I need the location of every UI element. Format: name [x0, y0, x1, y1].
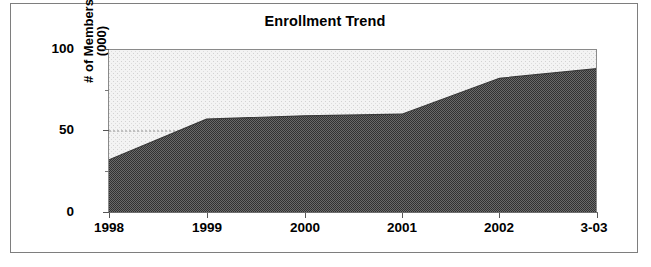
y-axis-title: # of Members (000): [80, 0, 110, 129]
plot-area: [109, 49, 597, 212]
area-chart-svg: [109, 49, 597, 212]
chart-frame: Enrollment Trend # of Members (000): [10, 3, 638, 253]
y-tick-label-100: 100: [14, 42, 74, 56]
x-tick-3-03: [597, 213, 598, 218]
y-tick-25: [105, 171, 109, 172]
y-tick-100: [103, 49, 109, 50]
y-axis-title-line-2: (000): [95, 0, 108, 83]
y-axis-line: [108, 49, 109, 213]
y-tick-label-0: 0: [14, 205, 74, 219]
x-tick-2001: [402, 213, 403, 218]
x-tick-label-2001: 2001: [367, 220, 437, 235]
x-axis-line: [108, 212, 598, 213]
y-tick-75: [105, 90, 109, 91]
y-tick-50: [103, 130, 109, 131]
x-tick-label-2002: 2002: [464, 220, 534, 235]
x-tick-label-2000: 2000: [270, 220, 340, 235]
x-tick-label-1998: 1998: [74, 220, 144, 235]
x-tick-label-1999: 1999: [172, 220, 242, 235]
x-tick-2000: [305, 213, 306, 218]
x-tick-2002: [499, 213, 500, 218]
x-tick-1998: [109, 213, 110, 218]
x-tick-label-3-03: 3-03: [559, 220, 629, 235]
x-tick-1999: [207, 213, 208, 218]
y-axis-title-line-1: # of Members: [81, 0, 94, 83]
y-tick-label-50: 50: [14, 123, 74, 137]
